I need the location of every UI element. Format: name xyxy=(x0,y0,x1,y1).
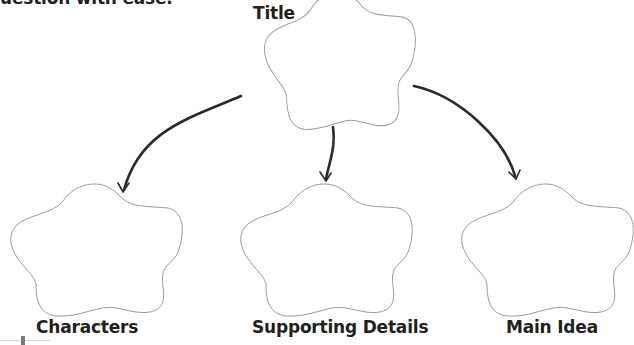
label-characters: Characters xyxy=(36,317,138,337)
label-main-idea: Main Idea xyxy=(506,317,598,337)
divider-line xyxy=(0,340,50,341)
arrow-title-to-characters xyxy=(118,96,241,192)
flower-characters[interactable] xyxy=(11,184,183,316)
arrow-title-to-main-idea xyxy=(414,86,520,179)
flower-supporting-details[interactable] xyxy=(241,184,413,316)
flower-main-idea[interactable] xyxy=(462,184,634,316)
label-title: Title xyxy=(253,3,295,23)
diagram-canvas xyxy=(0,0,634,345)
label-supporting-details: Supporting Details xyxy=(252,317,428,337)
page-marker xyxy=(21,336,25,345)
arrow-title-to-supporting-details xyxy=(320,127,334,181)
